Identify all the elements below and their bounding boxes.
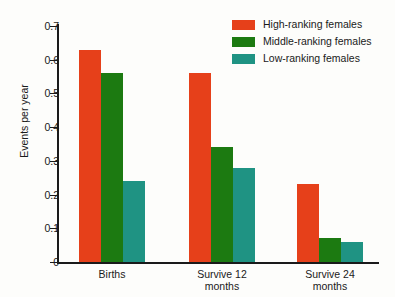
y-axis-tick-label: 0.5 [15, 88, 59, 98]
bar [341, 242, 363, 262]
legend-item: High-ranking females [232, 16, 372, 33]
y-axis-tick-label: 0.6 [15, 55, 59, 65]
x-axis-category-label: Survive 12months [172, 268, 272, 292]
x-axis-category-label-line: Survive 12 [172, 268, 272, 280]
bar [319, 238, 341, 262]
y-axis-tick-label: 0.3 [15, 156, 59, 166]
y-axis-tick-label: 0.2 [15, 190, 59, 200]
legend-color-swatch [232, 54, 255, 64]
x-axis-line [57, 262, 379, 264]
bar-group [79, 24, 145, 262]
x-axis-category-label-line: Births [62, 268, 162, 280]
y-axis-tick-label: 0.4 [15, 122, 59, 132]
legend-item-label: Middle-ranking females [263, 36, 372, 47]
bar [297, 184, 319, 262]
x-axis-category-label-line: Survive 24 [280, 268, 380, 280]
chart-legend: High-ranking femalesMiddle-ranking femal… [232, 16, 372, 67]
legend-color-swatch [232, 37, 255, 47]
bar [233, 168, 255, 262]
bar [101, 73, 123, 262]
x-axis-category-label: Survive 24months [280, 268, 380, 292]
x-axis-category-label: Births [62, 268, 162, 280]
y-axis-tick-label: 0.1 [15, 223, 59, 233]
x-axis-category-label-line: months [172, 280, 272, 292]
bar [123, 181, 145, 262]
legend-item-label: High-ranking females [263, 19, 362, 30]
bar [211, 147, 233, 262]
bar [189, 73, 211, 262]
bar [79, 50, 101, 262]
legend-color-swatch [232, 20, 255, 30]
x-axis-category-label-line: months [280, 280, 380, 292]
legend-item: Middle-ranking females [232, 33, 372, 50]
y-axis-title: Events per year [18, 51, 30, 191]
legend-item-label: Low-ranking females [263, 53, 360, 64]
y-axis-tick-label: 0.7 [15, 21, 59, 31]
bar-chart: Events per year 0.70.60.50.40.30.20.10 B… [0, 0, 395, 297]
y-axis-tick-label: 0 [15, 257, 59, 267]
legend-item: Low-ranking females [232, 50, 372, 67]
